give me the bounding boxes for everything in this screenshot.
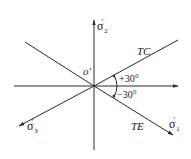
sigma3-prime: ′	[31, 118, 33, 127]
sigma3-subscript: 3	[34, 127, 38, 135]
sigma2-prime: ′	[101, 18, 103, 27]
stress-space-diagram	[0, 0, 191, 159]
sigma1-label: σ′1	[169, 118, 181, 130]
upper-left-line	[25, 42, 94, 86]
sigma2-subscript: 2	[104, 27, 108, 35]
te-label: TE	[131, 121, 144, 132]
sigma1-subscript: 1	[176, 125, 180, 133]
sigma1-prime: ′	[173, 116, 175, 125]
angle-arc-arrow-top	[112, 74, 115, 78]
sigma3-label: σ′3	[27, 120, 39, 132]
angle-lower-label: −30°	[117, 90, 137, 100]
sigma2-label: σ′2	[97, 20, 109, 32]
angle-upper-label: +30°	[119, 74, 139, 84]
origin-label: o'	[83, 66, 91, 77]
tc-label: TC	[137, 46, 150, 57]
